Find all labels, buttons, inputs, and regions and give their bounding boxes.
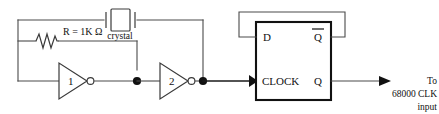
inverter-1-label: 1 bbox=[68, 75, 74, 87]
inverter-1-bubble-icon bbox=[87, 78, 94, 85]
inverter-1: 1 bbox=[18, 63, 137, 99]
d-flip-flop: D Q CLOCK Q bbox=[256, 22, 331, 100]
ff-pin-q-label: Q bbox=[314, 75, 322, 87]
output-destination-label: To 68000 CLK input bbox=[392, 76, 437, 112]
output-label-line1: To bbox=[427, 76, 437, 86]
resistor-branch-wires bbox=[18, 41, 137, 70]
ff-pin-d-label: D bbox=[263, 31, 271, 43]
inverter-2-bubble-icon bbox=[188, 78, 195, 85]
ff-pin-clock-label: CLOCK bbox=[262, 75, 299, 87]
inverter-2-label: 2 bbox=[169, 75, 175, 87]
circuit-diagram: crystal R = 1K Ω 1 bbox=[0, 0, 439, 114]
output-label-line2: 68000 CLK bbox=[392, 89, 437, 99]
resistor-symbol bbox=[36, 34, 59, 48]
crystal-label: crystal bbox=[107, 31, 133, 41]
q-output-wire bbox=[331, 76, 391, 86]
inverter-2: 2 bbox=[160, 63, 203, 99]
crystal-symbol bbox=[106, 9, 135, 31]
ff-pin-qbar-label: Q bbox=[314, 31, 322, 43]
output-label-line3: input bbox=[417, 102, 437, 112]
output-arrow-icon bbox=[379, 76, 391, 86]
clock-drive-wire bbox=[203, 75, 258, 87]
resistor-label: R = 1K Ω bbox=[63, 26, 102, 37]
circuit-schematic-canvas: crystal R = 1K Ω 1 bbox=[0, 0, 439, 114]
